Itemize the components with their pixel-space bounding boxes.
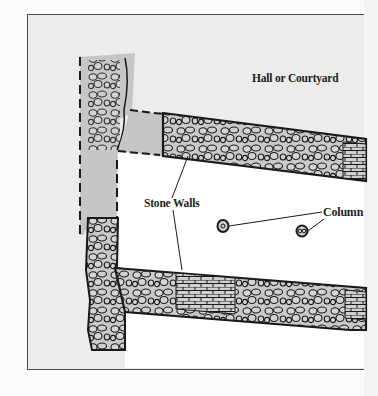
stone-walls-label: Stone Walls	[144, 197, 199, 209]
column-label: Column	[323, 205, 363, 220]
page: Hall or Courtyard Stone Walls Column	[0, 0, 378, 396]
column-1	[218, 220, 229, 232]
hall-label: Hall or Courtyard	[252, 72, 338, 84]
column-2	[297, 226, 308, 237]
